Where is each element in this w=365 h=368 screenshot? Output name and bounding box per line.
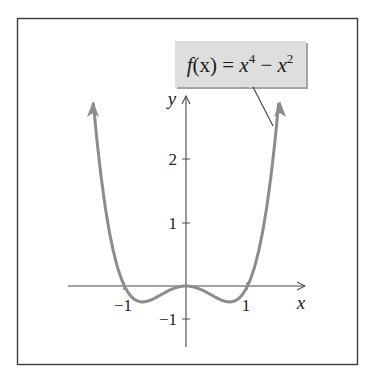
x-tick-label-1: 1 — [242, 296, 251, 315]
y-tick-label-neg1: −1 — [159, 310, 177, 329]
term2-exponent: 2 — [287, 51, 294, 66]
chart-canvas: −1 1 x 2 1 −1 y f(x) = x4 − x2 — [0, 0, 365, 368]
y-tick-label-1: 1 — [169, 214, 178, 233]
y-tick-label-2: 2 — [169, 150, 178, 169]
minus-sign: − — [255, 53, 277, 77]
function-arg: (x) — [193, 53, 218, 77]
y-axis-label: y — [166, 88, 177, 109]
x-axis-label: x — [296, 292, 306, 313]
equals-sign: = — [217, 53, 239, 77]
x-tick-label-neg1: −1 — [114, 296, 132, 315]
function-label: f(x) = x4 − x2 — [187, 51, 294, 77]
